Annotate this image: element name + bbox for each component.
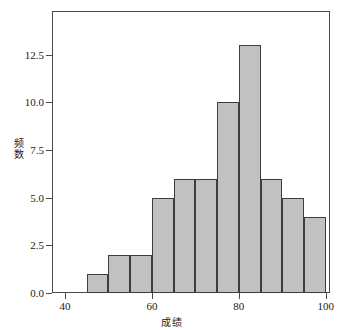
y-axis-tick: [46, 102, 52, 103]
x-axis-title: 成绩: [0, 314, 343, 329]
y-axis-tick: [46, 150, 52, 151]
y-axis-tick: [46, 198, 52, 199]
y-axis-tick-label: 12.5: [25, 50, 44, 61]
y-axis-title-char: 频: [12, 138, 26, 149]
x-axis-tick: [326, 293, 327, 299]
plot-area-frame: [52, 11, 330, 293]
x-axis-tick-label: 60: [132, 301, 172, 312]
x-axis-tick: [239, 293, 240, 299]
y-axis-tick-label: 7.5: [30, 145, 44, 156]
x-axis-tick-label: 80: [219, 301, 259, 312]
y-axis-tick-label: 10.0: [25, 97, 44, 108]
y-axis-tick-label: 2.5: [30, 240, 44, 251]
x-axis-tick: [152, 293, 153, 299]
y-axis-tick: [46, 245, 52, 246]
y-axis-title: 频 数: [12, 138, 26, 160]
y-axis-tick: [46, 55, 52, 56]
y-axis-tick-label: 0.0: [30, 288, 44, 299]
y-axis-tick: [46, 293, 52, 294]
y-axis-tick-label: 5.0: [30, 193, 44, 204]
x-axis-tick-label: 40: [45, 301, 85, 312]
x-axis-tick: [65, 293, 66, 299]
histogram-chart: 0.0 2.5 5.0 7.5 10.0 12.5 40 60 80 100 成…: [0, 0, 343, 330]
x-axis-tick-label: 100: [306, 301, 343, 312]
y-axis-title-char: 数: [12, 149, 26, 160]
